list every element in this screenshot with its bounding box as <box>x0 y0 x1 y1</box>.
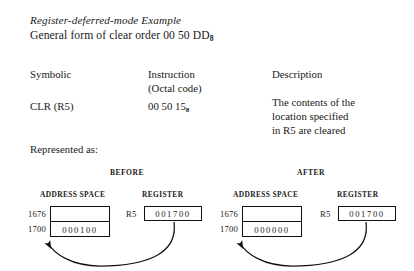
instruction-octal-digits: 00 50 15 <box>148 100 186 112</box>
diagram-state-label-before: BEFORE <box>110 168 144 177</box>
memory-box-after: 000000 <box>242 206 302 237</box>
page-subtitle-text: General form of clear order 00 50 DD <box>30 29 210 42</box>
column-header-symbolic: Symbolic <box>30 68 71 80</box>
memory-address-1700-after: 1700 <box>216 224 238 234</box>
register-label-after: REGISTER <box>337 190 378 199</box>
page-subtitle: General form of clear order 00 50 DD8 <box>30 28 214 44</box>
instruction-header-line1: Instruction <box>148 68 202 82</box>
register-box-after: 001700 <box>338 206 396 221</box>
memory-address-1700-before: 1700 <box>24 224 46 234</box>
register-label-before: REGISTER <box>142 190 183 199</box>
represented-as-label: Represented as: <box>30 143 98 155</box>
register-name-before: R5 <box>126 209 136 219</box>
memory-cell-1700-after: 000000 <box>243 222 301 237</box>
diagram-state-label-after: AFTER <box>297 168 325 177</box>
page-title: Register-deferred-mode Example <box>30 13 214 28</box>
instruction-octal-subscript: 8 <box>186 106 190 114</box>
instruction-header-line2: (Octal code) <box>148 82 202 96</box>
memory-box-before: 000100 <box>50 206 110 237</box>
address-space-label-before: ADDRESS SPACE <box>40 190 105 199</box>
memory-cell-1700-before: 000100 <box>51 222 109 237</box>
symbolic-value: CLR (R5) <box>30 100 74 112</box>
page-subtitle-subscript: 8 <box>210 33 214 42</box>
instruction-octal-value: 00 50 158 <box>148 100 189 114</box>
description-line-2: location specified <box>272 109 355 123</box>
column-header-instruction: Instruction (Octal code) <box>148 68 202 96</box>
description-line-1: The contents of the <box>272 95 355 109</box>
register-name-after: R5 <box>320 209 330 219</box>
description-line-3: in R5 are cleared <box>272 123 355 137</box>
memory-address-1676-before: 1676 <box>24 209 46 219</box>
description-body: The contents of the location specified i… <box>272 95 355 137</box>
memory-address-1676-after: 1676 <box>216 209 238 219</box>
memory-cell-1676-after <box>243 207 301 222</box>
memory-cell-1676-before <box>51 207 109 222</box>
document-page: Register-deferred-mode Example General f… <box>0 0 414 271</box>
address-space-label-after: ADDRESS SPACE <box>233 190 298 199</box>
heading-block: Register-deferred-mode Example General f… <box>30 13 214 44</box>
register-box-before: 001700 <box>144 206 202 221</box>
column-header-description: Description <box>272 68 322 80</box>
